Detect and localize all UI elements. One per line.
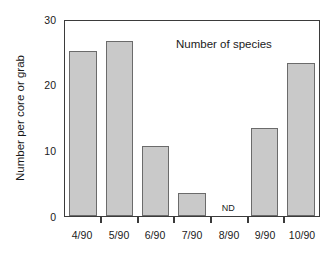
x-axis-label-10-90: 10/90	[277, 229, 327, 241]
x-axis-tick-6	[283, 217, 285, 223]
x-axis-tick-3	[173, 217, 175, 223]
bar-slot-6-90	[138, 21, 174, 216]
y-axis-tick-label-30: 30	[16, 15, 56, 25]
y-axis-title: Number per core or grab	[12, 18, 28, 218]
bar-series: ND	[65, 21, 319, 216]
bar-slot-8-90: ND	[210, 21, 246, 216]
x-axis-tick-5	[247, 217, 249, 223]
bar-slot-5-90	[101, 21, 137, 216]
bar-slot-4-90	[65, 21, 101, 216]
bar-10-90	[287, 63, 315, 216]
x-axis-tick-2	[137, 217, 139, 223]
bar-7-90	[178, 193, 206, 216]
bar-9-90	[251, 128, 279, 216]
bar-slot-9-90	[246, 21, 282, 216]
bar-6-90	[142, 146, 170, 216]
bar-chart-figure: Number per core or grab 30 20 10 0 ND	[0, 0, 331, 261]
bar-slot-7-90	[174, 21, 210, 216]
y-axis-tick-label-10: 10	[16, 146, 56, 156]
no-data-label-8-90: ND	[210, 203, 246, 213]
y-axis-tick-label-0: 0	[16, 212, 56, 222]
bar-slot-10-90	[283, 21, 319, 216]
y-axis-tick-label-20: 20	[16, 80, 56, 90]
chart-annotation: Number of species	[176, 38, 272, 50]
bar-5-90	[106, 41, 134, 217]
x-axis-tick-4	[210, 217, 212, 223]
bar-4-90	[69, 51, 97, 216]
x-axis-tick-1	[100, 217, 102, 223]
